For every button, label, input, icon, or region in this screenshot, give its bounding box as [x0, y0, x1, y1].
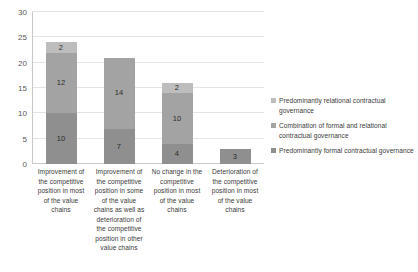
bar-stack[interactable]: 4102: [162, 83, 193, 164]
bar-segment[interactable]: 10: [46, 113, 77, 164]
category-labels: Improvement of the competitive position …: [32, 167, 264, 253]
bar-stack[interactable]: 3: [220, 149, 251, 164]
bar-slot: 714: [90, 12, 148, 164]
y-axis-tick-label: 20: [18, 58, 27, 67]
bar-segment[interactable]: 4: [162, 144, 193, 164]
bar-segment[interactable]: 2: [46, 42, 77, 52]
category-label: No change in the competitive position in…: [148, 167, 206, 253]
category-label: Improvement of the competitive position …: [90, 167, 148, 253]
legend-item[interactable]: Predominantly relational contractual gov…: [271, 96, 416, 116]
bar-slot: 4102: [148, 12, 206, 164]
legend-label: Predominantly relational contractual gov…: [279, 96, 416, 116]
legend-swatch-icon: [271, 148, 276, 153]
bar-segment[interactable]: 14: [104, 58, 135, 129]
category-label: Improvement of the competitive position …: [32, 167, 90, 253]
stacked-bar-chart: 051015202530 1012271441023 Improvement o…: [0, 0, 418, 272]
y-axis-tick-label: 30: [18, 8, 27, 17]
y-axis-tick-label: 25: [18, 33, 27, 42]
bars-layer: 1012271441023: [32, 12, 264, 164]
bar-value-label: 4: [175, 150, 179, 158]
bar-segment[interactable]: 12: [46, 53, 77, 114]
bar-value-label: 7: [117, 143, 121, 151]
bar-value-label: 10: [57, 135, 66, 143]
category-label: Deterioration of the competitive positio…: [206, 167, 264, 253]
bar-segment[interactable]: 10: [162, 93, 193, 144]
legend-label: Combination of formal and relational con…: [279, 121, 416, 141]
legend-label: Predominantly formal contractual governa…: [279, 146, 414, 156]
y-axis-tick-label: 15: [18, 84, 27, 93]
legend-swatch-icon: [271, 98, 276, 103]
bar-segment[interactable]: 2: [162, 83, 193, 93]
bar-stack[interactable]: 714: [104, 58, 135, 164]
bar-slot: 10122: [32, 12, 90, 164]
bar-segment[interactable]: 3: [220, 149, 251, 164]
bar-value-label: 12: [57, 79, 66, 87]
legend-item[interactable]: Predominantly formal contractual governa…: [271, 146, 416, 156]
y-axis-tick-label: 0: [22, 160, 27, 169]
bar-value-label: 10: [173, 115, 182, 123]
plot-area: 051015202530 1012271441023: [32, 12, 264, 164]
legend-item[interactable]: Combination of formal and relational con…: [271, 121, 416, 141]
legend-swatch-icon: [271, 123, 276, 128]
bar-value-label: 3: [233, 153, 237, 161]
y-axis-tick-label: 10: [18, 109, 27, 118]
bar-value-label: 2: [175, 84, 179, 92]
bar-stack[interactable]: 10122: [46, 42, 77, 164]
bar-value-label: 14: [115, 89, 124, 97]
bar-slot: 3: [206, 12, 264, 164]
bar-value-label: 2: [59, 44, 63, 52]
bar-segment[interactable]: 7: [104, 129, 135, 164]
y-axis-tick-label: 5: [22, 134, 27, 143]
chart-legend: Predominantly relational contractual gov…: [271, 96, 416, 160]
